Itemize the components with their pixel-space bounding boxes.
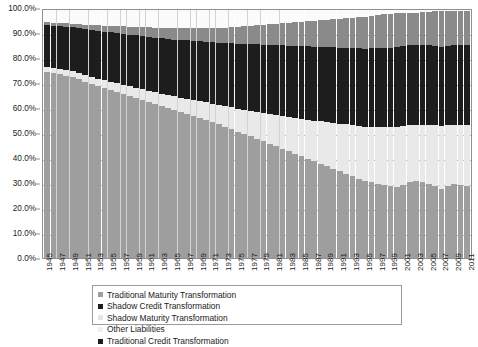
bar-segment (152, 10, 158, 28)
bar-segment (133, 35, 139, 87)
y-axis-tick-mark (36, 209, 40, 210)
bar-segment (261, 10, 267, 25)
legend-item[interactable]: Other Liabilities (98, 324, 244, 336)
bar-segment (362, 181, 368, 258)
bar-segment (362, 127, 368, 182)
bar-segment (330, 19, 336, 47)
bar-segment (413, 125, 419, 181)
bar-segment (235, 10, 241, 27)
bar-segment (165, 28, 171, 39)
bar-segment (273, 45, 279, 115)
bar-segment (210, 104, 216, 122)
bar-segment (420, 125, 426, 182)
bar-segment (241, 26, 247, 44)
bar-segment (464, 45, 470, 124)
bar-segment (184, 10, 190, 28)
stacked-bar (203, 10, 209, 258)
bar-segment (375, 15, 381, 48)
bar-segment (152, 28, 158, 38)
stacked-bar (165, 10, 171, 258)
bar-segment (70, 77, 76, 258)
y-axis-tick-mark (36, 59, 40, 60)
bar-segment (337, 48, 343, 124)
bar-segment (191, 100, 197, 116)
bar-segment (350, 125, 356, 176)
bar-segment (165, 108, 171, 258)
stacked-bar (95, 10, 101, 258)
bar-segment (400, 13, 406, 46)
bar-segment (197, 101, 203, 118)
bar-segment (292, 10, 298, 22)
bar-segment (432, 186, 438, 258)
stacked-bar (299, 10, 305, 258)
stacked-bar (210, 10, 216, 258)
bar-segment (191, 28, 197, 41)
bar-segment (216, 43, 222, 105)
bar-segment (286, 151, 292, 258)
bar-segment (63, 76, 69, 258)
bar-segment (121, 10, 127, 26)
stacked-bar (140, 10, 146, 258)
bar-segment (305, 159, 311, 258)
bar-segment (121, 26, 127, 33)
stacked-bar (324, 10, 330, 258)
bar-segment (203, 42, 209, 103)
stacked-bar (70, 10, 76, 258)
legend-item[interactable]: Shadow Credit Transformation (98, 301, 244, 313)
bar-segment (350, 48, 356, 125)
bar-segment (241, 110, 247, 134)
stacked-bar (171, 10, 177, 258)
legend-item[interactable]: Traditional Maturity Transformation (98, 289, 256, 301)
y-axis-tick-label: 90.0% (13, 30, 36, 38)
bar-segment (407, 125, 413, 182)
legend-label: Traditional Credit Transformation (107, 337, 229, 345)
bar-segment (451, 125, 457, 184)
bar-segment (413, 13, 419, 45)
legend-swatch-icon (98, 339, 103, 344)
bar-segment (222, 106, 228, 126)
bar-segment (343, 124, 349, 173)
stacked-bar (388, 10, 394, 258)
bar-segment (241, 44, 247, 110)
bar-segment (273, 146, 279, 258)
bar-segment (330, 47, 336, 122)
bar-segment (432, 125, 438, 186)
bar-segment (311, 161, 317, 258)
bar-segment (146, 37, 152, 91)
bar-segment (299, 156, 305, 258)
legend-item[interactable]: Shadow Maturity Transformation (98, 312, 256, 324)
bar-segment (184, 28, 190, 40)
bar-segment (152, 92, 158, 104)
stacked-bar (280, 10, 286, 258)
bar-segment (51, 26, 57, 69)
y-axis-tick-label: 60.0% (13, 105, 36, 113)
y-axis-tick-mark (36, 9, 40, 10)
y-axis-tick-mark (36, 84, 40, 85)
stacked-bar (356, 10, 362, 258)
stacked-bar (229, 10, 235, 258)
bar-segment (159, 106, 165, 258)
bar-segment (400, 185, 406, 258)
y-axis-tick-label: 80.0% (13, 55, 36, 63)
bar-segment (165, 39, 171, 95)
bar-segment (95, 31, 101, 79)
bar-segment (76, 10, 82, 24)
legend-swatch-icon (98, 315, 103, 320)
bar-segment (292, 22, 298, 46)
bar-segment (292, 46, 298, 118)
legend-item[interactable]: Traditional Credit Transformation (98, 335, 256, 347)
bar-segment (261, 113, 267, 141)
bar-segment (229, 27, 235, 43)
bar-segment (292, 154, 298, 258)
stacked-bar (381, 10, 387, 258)
stacked-bar (426, 10, 432, 258)
bar-segment (356, 17, 362, 48)
bar-segment (216, 10, 222, 28)
y-axis-tick-label: 100.0% (8, 5, 36, 13)
bar-segment (280, 45, 286, 116)
bar-segment (464, 11, 470, 45)
x-axis-slot: 2011 (465, 260, 471, 294)
bar-segment (127, 27, 133, 35)
bar-segment (369, 182, 375, 258)
bar-segment (324, 166, 330, 258)
